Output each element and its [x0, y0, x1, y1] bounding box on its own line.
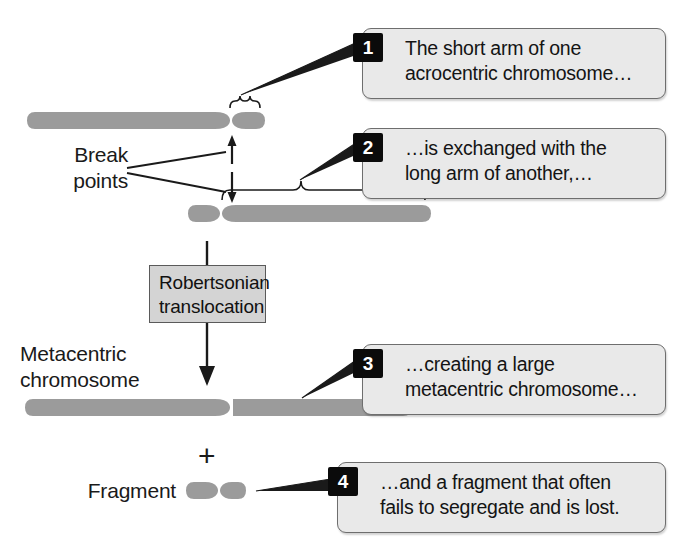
break-point-arrow-down [228, 172, 237, 203]
acrocentric-chromosome-2 [188, 205, 431, 222]
chromosome-1-long-arm [27, 112, 230, 129]
fragment-shape [186, 482, 246, 499]
callout-4[interactable]: 4 …and a fragment that often fails to se… [337, 462, 666, 533]
metacentric-chromosome [25, 399, 412, 416]
callout-3-text: …creating a large metacentric chromosome… [405, 352, 659, 402]
fragment-left-lobe [186, 482, 218, 499]
robertsonian-translocation-figure: Break points Robertsonian translocation … [0, 0, 688, 537]
break-point-line-lower [127, 173, 226, 192]
callout-2-text: …is exchanged with the long arm of anoth… [405, 136, 659, 186]
robertsonian-translocation-box: Robertsonian translocation [149, 265, 266, 323]
callout-3[interactable]: 3 …creating a large metacentric chromoso… [362, 344, 666, 415]
break-point-arrow-up [228, 135, 237, 164]
short-arm-brace [230, 96, 260, 108]
callout-2-badge: 2 [353, 133, 383, 162]
metacentric-chromosome-label: Metacentric chromosome [20, 341, 190, 393]
break-points-label: Break points [46, 142, 128, 194]
fragment-label: Fragment [56, 478, 176, 504]
acrocentric-chromosome-1 [27, 112, 265, 129]
metacentric-left-arm [25, 399, 230, 416]
callout-2[interactable]: 2 …is exchanged with the long arm of ano… [362, 128, 666, 199]
callout-4-badge: 4 [328, 467, 358, 496]
fragment-right-lobe [220, 482, 246, 499]
callout-1-leader-edge [241, 40, 362, 95]
chromosome-1-short-arm [232, 112, 265, 129]
chromosome-2-short-arm [188, 205, 220, 222]
chromosome-2-long-arm [222, 205, 431, 222]
plus-sign-label: + [198, 441, 216, 471]
callout-1-text: The short arm of one acrocentric chromos… [405, 36, 659, 86]
break-points-pointers [127, 135, 237, 203]
callout-1-badge: 1 [353, 33, 383, 62]
callout-4-text: …and a fragment that often fails to segr… [380, 470, 659, 520]
callout-3-badge: 3 [353, 349, 383, 378]
process-arrow-head [199, 366, 215, 386]
break-point-line-upper [127, 152, 226, 168]
callout-1[interactable]: 1 The short arm of one acrocentric chrom… [362, 28, 666, 99]
